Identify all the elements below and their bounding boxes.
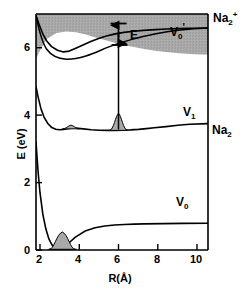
x-tick-label-8: 8 [154,254,160,265]
label-v1-subscript: 1 [191,112,195,121]
label-species-ion-superscript: + [233,10,238,19]
label-ionic-subscript: 0 [178,32,182,41]
y-tick-label-0: 0 [24,245,30,256]
label-v1-curve: V1 [183,106,195,118]
x-tick-label-2: 2 [36,254,42,265]
y-axis-label: E (eV) [15,114,27,174]
label-ionic-curve: V0' [170,26,185,38]
label-energy-gap: E [130,29,138,41]
x-tick-label-6: 6 [114,254,120,265]
x-tick-label-4: 4 [75,254,81,265]
label-species-neutral-base: Na [212,123,227,137]
x-tick-label-10: 10 [190,254,202,265]
label-species-neutral: Na2 [212,124,232,136]
label-ionic-prime: ' [182,22,184,33]
label-ionic-base: V [170,25,178,39]
y-tick-label-6: 6 [24,42,30,53]
label-v1-base: V [183,105,191,119]
label-species-neutral-subscript: 2 [227,130,231,139]
label-species-ion-base: Na [213,11,228,25]
label-species-ion: Na2+ [213,12,237,24]
y-tick-label-2: 2 [24,177,30,188]
label-species-ion-subscript: 2 [228,18,232,27]
wavepacket-v1-small [63,125,80,129]
label-v0-subscript: 0 [184,202,188,211]
label-v0-base: V [176,195,184,209]
label-v0-curve: V0 [176,196,188,208]
x-axis-label: R(Å) [60,272,180,284]
potential-energy-curve-figure: 0 2 4 6 2 4 6 8 10 E (eV) R(Å) V0' V1 V0… [0,0,244,297]
